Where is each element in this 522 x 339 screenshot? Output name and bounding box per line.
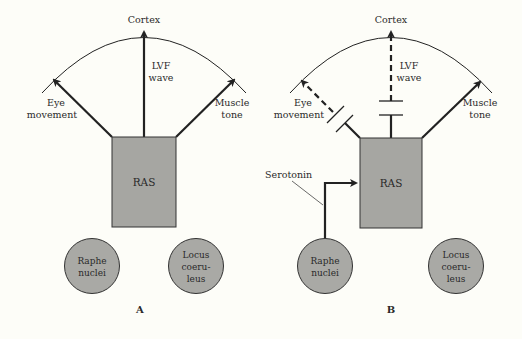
raphe-nuclei [298, 239, 353, 294]
leus-label: leus [447, 274, 466, 284]
coeru-label: coeru- [182, 262, 211, 272]
tone-label: tone [221, 109, 243, 120]
tone-label: tone [469, 109, 491, 120]
serotonin-arrow [325, 183, 356, 240]
leus-label: leus [187, 274, 206, 284]
ras-label: RAS [133, 176, 156, 188]
serotonin-label: Serotonin [265, 169, 312, 180]
raphe-label: Raphe [310, 256, 339, 266]
locus-label: Locus [443, 250, 470, 260]
panel-b: Cortex Eye movement LVF wave Muscle tone… [265, 14, 498, 315]
panel-a: Cortex Eye movement LVF wave Muscle tone… [27, 14, 250, 315]
raphe-label: Raphe [77, 256, 106, 266]
cortex-label: Cortex [128, 14, 161, 25]
lvf-label: LVF [152, 60, 171, 71]
panel-a-label: A [135, 304, 144, 315]
muscle-label: Muscle [215, 97, 250, 108]
eye-movement-solid [345, 123, 360, 138]
movement-label: movement [27, 109, 77, 120]
diagram: Cortex Eye movement LVF wave Muscle tone… [0, 0, 522, 339]
serotonin-leader-line [292, 181, 323, 205]
wave-label: wave [149, 72, 174, 83]
ras-label: RAS [380, 177, 403, 189]
eye-label: Eye [47, 97, 65, 108]
muscle-label: Muscle [463, 97, 498, 108]
raphe-nuclei [65, 239, 120, 294]
panel-b-label: B [387, 304, 395, 315]
lvf-label: LVF [400, 60, 419, 71]
cortex-label: Cortex [375, 14, 408, 25]
nuclei-label: nuclei [78, 268, 106, 278]
coeru-label: coeru- [442, 262, 471, 272]
wave-label: wave [397, 72, 422, 83]
nuclei-label: nuclei [311, 268, 339, 278]
movement-label: movement [274, 109, 324, 120]
locus-label: Locus [183, 250, 210, 260]
eye-label: Eye [294, 97, 312, 108]
